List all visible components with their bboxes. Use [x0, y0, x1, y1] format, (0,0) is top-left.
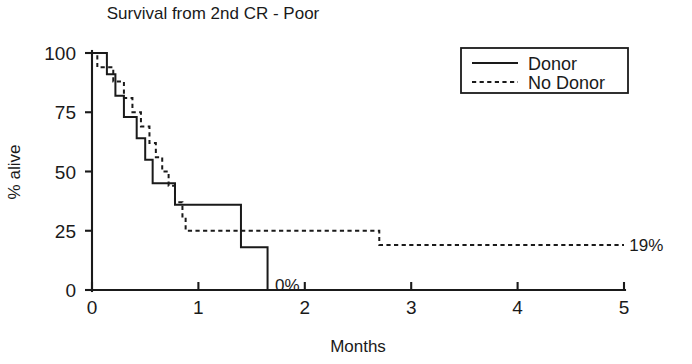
chart-title: Survival from 2nd CR - Poor	[107, 4, 320, 23]
x-axis-ticks: 012345	[87, 282, 630, 318]
km-plot-svg: Survival from 2nd CR - Poor 0255075100 0…	[0, 0, 692, 364]
survival-chart: Survival from 2nd CR - Poor 0255075100 0…	[0, 0, 692, 364]
y-tick-label: 100	[44, 43, 76, 64]
y-axis-label: % alive	[5, 145, 24, 200]
annotation-no-donor-endpoint: 19%	[629, 236, 663, 255]
x-tick-label: 3	[406, 297, 417, 318]
legend-label-no-donor: No Donor	[528, 73, 605, 93]
x-axis-label: Months	[330, 337, 386, 356]
y-tick-label: 75	[55, 102, 76, 123]
chart-legend: Donor No Donor	[461, 48, 628, 93]
y-axis-ticks: 0255075100	[44, 43, 92, 301]
x-tick-label: 4	[512, 297, 523, 318]
x-tick-label: 2	[300, 297, 311, 318]
y-tick-label: 0	[65, 280, 76, 301]
x-tick-label: 1	[193, 297, 204, 318]
legend-label-donor: Donor	[528, 54, 577, 74]
annotation-donor-endpoint: 0%	[275, 276, 300, 295]
y-tick-label: 25	[55, 221, 76, 242]
y-tick-label: 50	[55, 162, 76, 183]
series-line-donor	[92, 53, 284, 290]
x-tick-label: 0	[87, 297, 98, 318]
x-tick-label: 5	[619, 297, 630, 318]
